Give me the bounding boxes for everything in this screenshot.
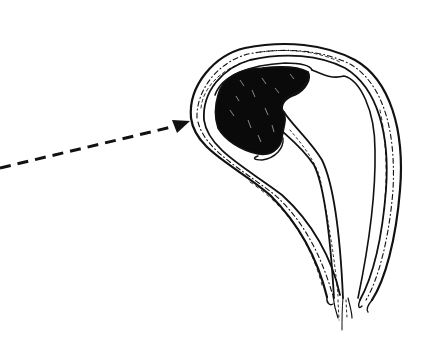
illustration-canvas xyxy=(0,0,427,357)
anatomical-illustration xyxy=(0,0,427,357)
